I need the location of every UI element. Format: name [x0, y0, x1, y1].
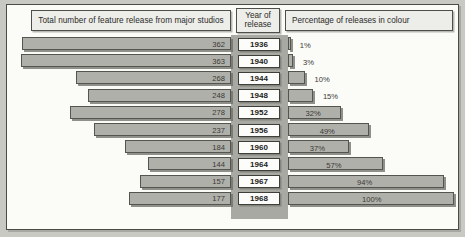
- year-box: 1952: [238, 106, 280, 119]
- left-bar-releases: 363: [21, 54, 231, 67]
- left-bar-releases: 157: [140, 175, 231, 188]
- year-box: 1960: [238, 141, 280, 154]
- year-box: 1936: [238, 38, 280, 51]
- right-bar-value-label: 10%: [315, 74, 330, 83]
- left-bar-track: 237: [21, 122, 231, 139]
- chart-row: 278195232%: [7, 105, 458, 122]
- right-bar-track: 1%: [288, 36, 456, 53]
- left-bar-track: 248: [21, 88, 231, 105]
- left-bar-releases: 362: [22, 37, 231, 50]
- chart-inner-area: Total number of feature release from maj…: [7, 5, 458, 229]
- right-bar-track: 37%: [288, 139, 456, 156]
- left-bar-track: 184: [21, 139, 231, 156]
- year-box: 1940: [238, 55, 280, 68]
- chart-row: 144196457%: [7, 156, 458, 173]
- left-bar-releases: 177: [129, 192, 231, 205]
- right-bar-value-label: 3%: [303, 57, 314, 66]
- right-bar-colour-percentage: [288, 71, 305, 84]
- chart-row: 1771968100%: [7, 191, 458, 208]
- right-bar-value-label: 49%: [320, 126, 335, 135]
- left-bar-releases: 248: [88, 89, 231, 102]
- right-bar-colour-percentage: [288, 89, 313, 102]
- header-right-colour-percentage: Percentage of releases in colour: [285, 10, 453, 31]
- left-bar-releases: 184: [125, 140, 231, 153]
- chart-row: 268194410%: [7, 70, 458, 87]
- chart-panel: Total number of feature release from maj…: [6, 4, 459, 230]
- right-bar-track: 15%: [288, 88, 456, 105]
- left-bar-value-label: 177: [212, 194, 225, 203]
- left-bar-value-label: 362: [212, 39, 225, 48]
- chart-row: 36219361%: [7, 36, 458, 53]
- left-bar-value-label: 144: [212, 159, 225, 168]
- left-bar-track: 363: [21, 53, 231, 70]
- right-bar-value-label: 57%: [326, 160, 341, 169]
- right-bar-value-label: 94%: [357, 178, 372, 187]
- year-box: 1967: [238, 175, 280, 188]
- chart-frame: Total number of feature release from maj…: [0, 0, 465, 237]
- left-bar-track: 157: [21, 174, 231, 191]
- right-bar-colour-percentage: [288, 54, 293, 67]
- chart-row: 36319403%: [7, 53, 458, 70]
- right-bar-value-label: 15%: [323, 92, 338, 101]
- year-box: 1948: [238, 89, 280, 102]
- year-box: 1944: [238, 72, 280, 85]
- right-bar-value-label: 37%: [310, 143, 325, 152]
- right-bar-track: 32%: [288, 105, 456, 122]
- right-bar-track: 49%: [288, 122, 456, 139]
- left-bar-releases: 144: [148, 157, 231, 170]
- left-bar-track: 144: [21, 156, 231, 173]
- left-bar-value-label: 278: [212, 108, 225, 117]
- right-bar-track: 57%: [288, 156, 456, 173]
- chart-row: 184196037%: [7, 139, 458, 156]
- right-bar-track: 3%: [288, 53, 456, 70]
- left-bar-track: 278: [21, 105, 231, 122]
- left-bar-value-label: 248: [212, 91, 225, 100]
- left-bar-track: 268: [21, 70, 231, 87]
- header-left-releases: Total number of feature release from maj…: [31, 10, 231, 31]
- left-bar-track: 177: [21, 191, 231, 208]
- chart-row: 248194815%: [7, 88, 458, 105]
- left-bar-releases: 278: [70, 106, 231, 119]
- right-bar-track: 10%: [288, 70, 456, 87]
- left-bar-value-label: 184: [212, 142, 225, 151]
- header-year-of-release: Year of release: [236, 8, 280, 33]
- year-box: 1964: [238, 158, 280, 171]
- left-bar-value-label: 363: [212, 56, 225, 65]
- left-bar-releases: 237: [94, 123, 231, 136]
- right-bar-value-label: 100%: [362, 195, 381, 204]
- right-bar-track: 100%: [288, 191, 456, 208]
- chart-row: 157196794%: [7, 174, 458, 191]
- left-bar-releases: 268: [76, 71, 231, 84]
- left-bar-value-label: 268: [212, 73, 225, 82]
- right-bar-value-label: 32%: [306, 109, 321, 118]
- year-box: 1968: [238, 192, 280, 205]
- header-left-label: Total number of feature release from maj…: [38, 16, 223, 25]
- right-bar-value-label: 1%: [300, 40, 311, 49]
- header-year-line2: release: [245, 21, 272, 30]
- left-bar-value-label: 237: [212, 125, 225, 134]
- chart-row: 237195649%: [7, 122, 458, 139]
- header-right-label: Percentage of releases in colour: [292, 16, 409, 25]
- left-bar-value-label: 157: [212, 177, 225, 186]
- right-bar-track: 94%: [288, 174, 456, 191]
- right-bar-colour-percentage: [288, 37, 291, 50]
- left-bar-track: 362: [21, 36, 231, 53]
- year-box: 1956: [238, 124, 280, 137]
